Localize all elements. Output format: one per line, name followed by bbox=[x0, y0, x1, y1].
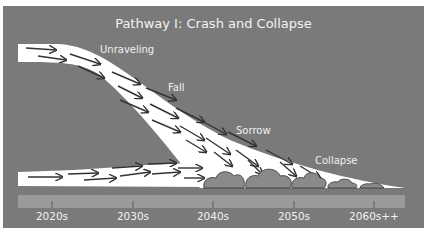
stage-label-sorrow: Sorrow bbox=[236, 125, 271, 136]
stage-label-collapse: Collapse bbox=[315, 155, 358, 166]
timeline-bar bbox=[18, 195, 405, 208]
timeline-label-2030s: 2030s bbox=[103, 210, 163, 222]
timeline-label-2020s: 2020s bbox=[22, 210, 82, 222]
timeline-label-2040s: 2040s bbox=[183, 210, 243, 222]
stage-label-fall: Fall bbox=[168, 82, 185, 93]
diagram-title: Pathway I: Crash and Collapse bbox=[3, 16, 424, 31]
timeline-label-2050s: 2050s bbox=[264, 210, 324, 222]
timeline-label-2060s: 2060s++ bbox=[344, 210, 404, 222]
pathway-diagram bbox=[0, 0, 427, 233]
stage-label-unraveling: Unraveling bbox=[100, 44, 154, 55]
